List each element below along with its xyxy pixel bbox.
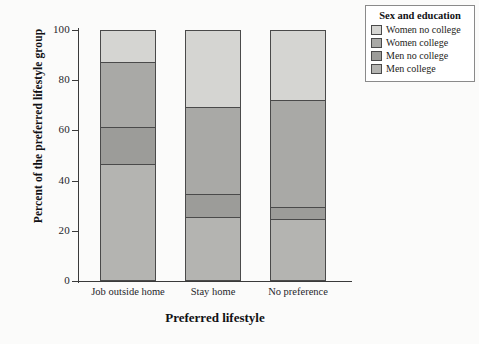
legend-item-label: Men college <box>386 63 436 74</box>
x-axis-tick-label: No preference <box>243 286 353 297</box>
bar-segment[interactable] <box>271 101 325 208</box>
y-axis-tick-label: 0 <box>26 274 70 286</box>
bar-segment[interactable] <box>186 218 240 280</box>
bar-segment[interactable] <box>101 63 155 128</box>
legend-swatch-icon <box>371 38 382 48</box>
legend-item[interactable]: Women no college <box>371 24 469 35</box>
x-axis-title: Preferred lifestyle <box>78 310 352 326</box>
bar-segment[interactable] <box>101 31 155 63</box>
y-axis-tick <box>72 281 78 282</box>
x-axis-line <box>78 281 352 282</box>
bar-segment[interactable] <box>186 195 240 217</box>
chart-figure: 100806040200 Percent of the preferred li… <box>0 0 479 344</box>
y-axis-tick-label-wrapper: 0 <box>0 274 70 288</box>
bar-segment[interactable] <box>186 108 240 195</box>
legend-item[interactable]: Men no college <box>371 50 469 61</box>
legend-swatch-icon <box>371 64 382 74</box>
bar-segment[interactable] <box>271 31 325 101</box>
legend-title: Sex and education <box>371 10 469 21</box>
legend-item-label: Women no college <box>386 24 461 35</box>
legend-item-label: Men no college <box>386 50 448 61</box>
bar-segment[interactable] <box>101 128 155 165</box>
bar-segment[interactable] <box>186 31 240 108</box>
legend: Sex and education Women no collegeWomen … <box>365 5 475 82</box>
stacked-bar[interactable] <box>185 30 241 281</box>
legend-item-label: Women college <box>386 37 448 48</box>
legend-item[interactable]: Men college <box>371 63 469 74</box>
bar-segment[interactable] <box>271 208 325 220</box>
legend-swatch-icon <box>371 25 382 35</box>
legend-items: Women no collegeWomen collegeMen no coll… <box>371 24 469 74</box>
legend-swatch-icon <box>371 51 382 61</box>
legend-item[interactable]: Women college <box>371 37 469 48</box>
plot-area <box>78 30 330 281</box>
bar-segment[interactable] <box>101 165 155 280</box>
stacked-bar[interactable] <box>100 30 156 281</box>
y-axis-title: Percent of the preferred lifestyle group <box>32 0 44 256</box>
bar-segment[interactable] <box>271 220 325 280</box>
stacked-bar[interactable] <box>270 30 326 281</box>
